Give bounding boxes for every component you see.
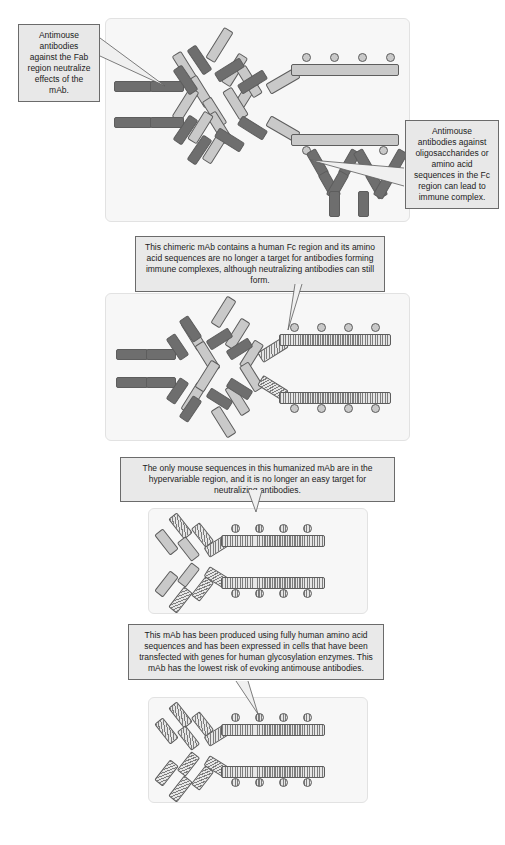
glycan-circle <box>317 404 326 413</box>
glycan-circle <box>255 589 264 598</box>
callout-fc-immune-complex: Antimouse antibodies against oligosaccha… <box>405 120 499 209</box>
humanized-fc-heavy-chain-upper <box>221 535 325 547</box>
glycan-circle <box>279 589 288 598</box>
fully-human-fab-arm-upper <box>177 725 200 751</box>
glycan-circle <box>303 713 312 722</box>
chimeric-fab-arm-upper <box>116 349 148 360</box>
glycan-circle <box>290 323 299 332</box>
chimeric-fab-arm-lower <box>116 377 148 388</box>
glycan-circle <box>279 524 288 533</box>
anti-mouse-ab-light-arm <box>210 296 236 329</box>
callout-fully-human-note: This mAb has been produced using fully h… <box>128 624 384 680</box>
glycan-circle <box>279 713 288 722</box>
glycan-circle <box>231 589 240 598</box>
humanized-fab-arm-upper <box>177 536 200 562</box>
anti-fc-antibody-stem <box>329 191 340 217</box>
chimeric-fab-arm-upper <box>146 349 176 360</box>
fully-human-fab-arm-lower <box>168 775 193 802</box>
fully-human-fab-arm-upper <box>154 717 179 744</box>
glycan-circle <box>279 778 288 787</box>
murine-fab-arm-lower <box>150 117 184 128</box>
hypervariable-region-tip <box>154 528 179 555</box>
glycan-circle <box>303 524 312 533</box>
fully-human-fc-heavy-chain-upper <box>221 724 325 736</box>
humanized-fc-heavy-chain-lower <box>221 577 325 589</box>
glycan-circle <box>231 524 240 533</box>
panel-humanized <box>148 508 368 614</box>
fully-human-fab-arm-lower <box>154 759 179 786</box>
chimeric-fc-heavy-chain-lower <box>279 392 391 404</box>
murine-fab-arm-upper <box>150 81 184 92</box>
glycan-circle <box>303 778 312 787</box>
humanized-fab-arm-lower <box>168 586 193 613</box>
callout-fab-neutralize: Antimouse antibodies against the Fab reg… <box>18 24 100 102</box>
glycan-circle <box>344 404 353 413</box>
glycan-circle <box>344 323 353 332</box>
callout-chimeric-note: This chimeric mAb contains a human Fc re… <box>135 236 385 292</box>
anti-fc-antibody-stem <box>358 191 369 217</box>
chimeric-fab-arm-lower <box>146 377 176 388</box>
chimeric-fc-heavy-chain-upper <box>279 334 391 346</box>
glycan-circle <box>358 53 367 62</box>
glycan-circle <box>255 713 264 722</box>
glycan-circle <box>371 404 380 413</box>
anti-mouse-ab-light-arm <box>194 360 220 393</box>
humanized-fab-arm-lower <box>177 562 200 588</box>
glycan-circle <box>386 53 395 62</box>
anti-mouse-ab-dark-arm <box>237 115 268 140</box>
panel-chimeric <box>105 293 410 441</box>
murine-fc-heavy-chain-upper <box>291 64 399 76</box>
glycan-circle <box>290 404 299 413</box>
glycan-circle <box>371 323 380 332</box>
figure-root: Antimouse antibodies against the Fab reg… <box>0 0 505 845</box>
fully-human-fc-heavy-chain-lower <box>221 766 325 778</box>
panel-fully-human <box>148 697 368 803</box>
glycan-circle <box>255 524 264 533</box>
glycan-circle <box>231 713 240 722</box>
humanized-fab-arm-upper <box>168 512 193 539</box>
glycan-circle <box>303 589 312 598</box>
glycan-circle <box>231 778 240 787</box>
glycan-circle <box>255 778 264 787</box>
panel-murine <box>105 18 410 222</box>
anti-mouse-ab-light-arm <box>205 27 233 63</box>
hypervariable-region-tip <box>154 570 179 597</box>
glycan-circle <box>330 53 339 62</box>
chimeric-fab-arm-diagonal <box>179 395 203 423</box>
anti-mouse-ab-light-arm <box>210 406 236 439</box>
glycan-circle <box>317 323 326 332</box>
fully-human-fab-arm-upper <box>168 701 193 728</box>
murine-fab-arm-lower <box>114 117 152 128</box>
murine-fab-arm-upper <box>114 81 152 92</box>
glycan-circle <box>379 146 388 155</box>
fully-human-fab-arm-lower <box>177 751 200 777</box>
callout-humanized-note: The only mouse sequences in this humaniz… <box>120 457 395 502</box>
chimeric-fab-arm-diagonal <box>179 315 203 343</box>
murine-fc-heavy-chain-lower <box>291 134 399 146</box>
glycan-circle <box>302 53 311 62</box>
